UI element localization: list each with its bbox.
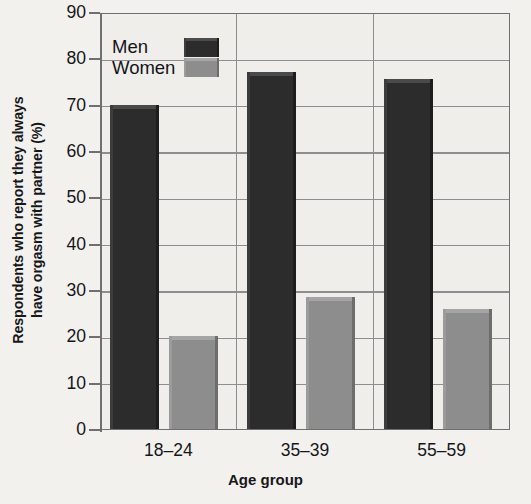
legend-labels: Men Women	[112, 36, 175, 78]
y-axis-tick-label: 90	[44, 4, 86, 22]
bar-women-55-59	[443, 309, 492, 429]
y-axis-tick-label: 20	[44, 328, 86, 346]
legend-swatch-women	[184, 58, 219, 77]
bar-men-35-39	[247, 72, 296, 429]
y-axis-tick-label: 70	[44, 97, 86, 115]
x-axis-title: Age group	[0, 471, 531, 488]
bar-women-18-24	[169, 336, 218, 429]
y-axis-tick-label: 0	[44, 421, 86, 439]
gridline-vertical	[236, 14, 237, 429]
legend-label-women: Women	[112, 57, 175, 78]
y-axis-title-line2: have orgasm with partner (%)	[28, 96, 47, 343]
legend-swatches	[184, 38, 219, 77]
y-axis-tick-label: 40	[44, 236, 86, 254]
y-axis-tick	[89, 105, 100, 107]
y-axis-tick-label: 50	[44, 189, 86, 207]
y-axis-tick-label: 80	[44, 50, 86, 68]
y-axis-tick	[89, 429, 100, 431]
gridline-horizontal	[100, 106, 509, 107]
gridline-vertical	[373, 14, 374, 429]
bar-women-35-39	[306, 297, 355, 429]
y-axis-tick	[89, 244, 100, 246]
bar-chart-figure: Respondents who report they always have …	[0, 0, 531, 504]
gridline-horizontal	[100, 245, 509, 246]
x-axis-tick-label: 55–59	[372, 440, 512, 461]
y-axis-tick-label: 10	[44, 375, 86, 393]
gridline-horizontal	[100, 152, 509, 153]
x-axis-tick-label: 18–24	[98, 440, 238, 461]
bar-men-18-24	[110, 105, 159, 429]
gridline-horizontal	[100, 199, 509, 200]
x-axis-tick-label: 35–39	[235, 440, 375, 461]
y-axis-tick	[89, 290, 100, 292]
y-axis-tick	[89, 197, 100, 199]
bar-men-55-59	[384, 79, 433, 429]
y-axis-tick	[89, 12, 100, 14]
legend: Men Women	[112, 36, 219, 78]
y-axis-tick	[89, 58, 100, 60]
legend-label-men: Men	[112, 36, 175, 57]
legend-swatch-men	[184, 38, 219, 57]
y-axis-tick	[89, 383, 100, 385]
y-axis-spine	[100, 13, 102, 432]
y-axis-tick-label: 30	[44, 282, 86, 300]
y-axis-tick	[89, 151, 100, 153]
y-axis-title-line1: Respondents who report they always	[10, 96, 26, 343]
y-axis-tick-label: 60	[44, 143, 86, 161]
y-axis-tick	[89, 336, 100, 338]
gridline-horizontal	[100, 291, 509, 292]
